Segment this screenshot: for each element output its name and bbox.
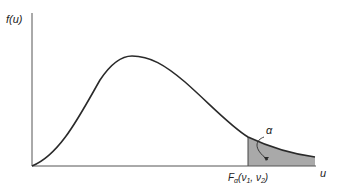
- critical-value-label: Fα(ν1, ν2): [228, 172, 268, 184]
- alpha-label: α: [266, 124, 272, 136]
- critical-comma: , ν: [250, 172, 261, 183]
- y-axis-label: f(u): [6, 13, 23, 25]
- critical-close: ): [265, 172, 268, 183]
- f-distribution-chart: [0, 0, 342, 189]
- x-axis-label: u: [320, 167, 326, 179]
